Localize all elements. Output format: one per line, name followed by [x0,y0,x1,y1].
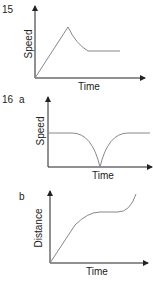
y-axis-label: Speed [35,111,47,151]
speed-line [48,133,150,167]
x-axis-label: Time [92,170,114,182]
question-number-16: 16 [2,94,13,106]
x-axis-label: Time [86,266,108,278]
chart-16a [48,97,152,167]
sub-label-b: b [19,191,25,203]
chart-15 [35,6,145,78]
question-number-15: 15 [2,4,13,16]
speed-line [35,27,120,78]
distance-line [50,194,136,263]
x-axis-label: Time [78,81,100,93]
y-axis-label: Distance [33,203,45,253]
sub-label-a: a [19,94,25,106]
y-axis-label: Speed [23,24,35,64]
chart-16b [50,191,148,263]
